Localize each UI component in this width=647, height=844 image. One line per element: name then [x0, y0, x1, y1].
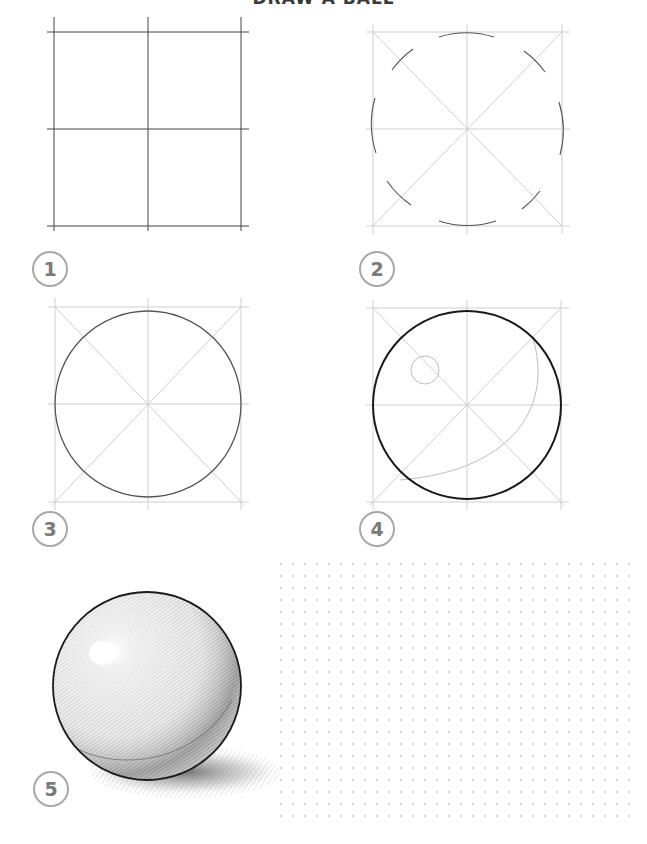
step-2-construction-guides [366, 24, 570, 234]
practice-dot-grid[interactable] [275, 558, 631, 822]
step-1-grid-square [47, 17, 249, 231]
step-4-badge: 4 [359, 511, 395, 547]
step-4-construction-guides [366, 300, 569, 510]
step-3-badge: 3 [32, 511, 68, 547]
step-2-badge: 2 [359, 251, 395, 287]
step-1-badge: 1 [32, 251, 68, 287]
step-4-highlight-circle [411, 356, 439, 384]
step-5-badge: 5 [33, 771, 69, 807]
step-3-construction-guides [48, 298, 249, 510]
step-5-highlight [89, 641, 117, 665]
step-4-shadow-line [400, 339, 538, 480]
